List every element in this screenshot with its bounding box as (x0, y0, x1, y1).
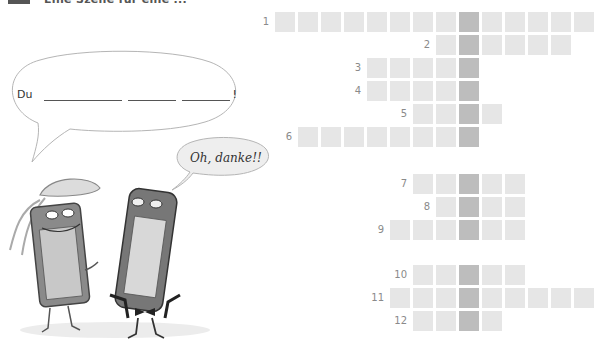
crossword-cell[interactable] (413, 174, 433, 194)
crossword-grid: 123456789101112 (0, 0, 603, 342)
clue-number: 8 (410, 201, 430, 212)
crossword-cell[interactable] (390, 220, 410, 240)
crossword-cell[interactable] (574, 12, 594, 32)
crossword-cell[interactable] (436, 288, 456, 308)
crossword-cell[interactable] (505, 220, 525, 240)
clue-number: 4 (341, 85, 361, 96)
solution-cell[interactable] (459, 265, 479, 285)
crossword-cell[interactable] (482, 197, 502, 217)
solution-cell[interactable] (459, 197, 479, 217)
crossword-cell[interactable] (321, 127, 341, 147)
crossword-cell[interactable] (413, 311, 433, 331)
crossword-cell[interactable] (482, 35, 502, 55)
solution-cell[interactable] (459, 288, 479, 308)
crossword-cell[interactable] (551, 35, 571, 55)
crossword-cell[interactable] (413, 81, 433, 101)
crossword-cell[interactable] (528, 288, 548, 308)
solution-cell[interactable] (459, 127, 479, 147)
solution-cell[interactable] (459, 174, 479, 194)
crossword-cell[interactable] (321, 12, 341, 32)
crossword-cell[interactable] (482, 220, 502, 240)
crossword-cell[interactable] (413, 104, 433, 124)
crossword-cell[interactable] (482, 104, 502, 124)
crossword-cell[interactable] (436, 311, 456, 331)
crossword-cell[interactable] (551, 288, 571, 308)
solution-cell[interactable] (459, 220, 479, 240)
crossword-cell[interactable] (344, 127, 364, 147)
crossword-cell[interactable] (505, 174, 525, 194)
crossword-cell[interactable] (505, 35, 525, 55)
crossword-cell[interactable] (413, 265, 433, 285)
crossword-cell[interactable] (505, 288, 525, 308)
crossword-cell[interactable] (298, 127, 318, 147)
crossword-cell[interactable] (367, 81, 387, 101)
crossword-cell[interactable] (436, 197, 456, 217)
crossword-cell[interactable] (528, 12, 548, 32)
crossword-cell[interactable] (367, 58, 387, 78)
clue-number: 12 (387, 315, 407, 326)
crossword-cell[interactable] (367, 12, 387, 32)
crossword-cell[interactable] (413, 12, 433, 32)
crossword-cell[interactable] (413, 220, 433, 240)
clue-number: 9 (364, 224, 384, 235)
solution-cell[interactable] (459, 35, 479, 55)
crossword-cell[interactable] (574, 288, 594, 308)
crossword-cell[interactable] (505, 197, 525, 217)
crossword-cell[interactable] (436, 35, 456, 55)
crossword-cell[interactable] (436, 12, 456, 32)
crossword-cell[interactable] (482, 174, 502, 194)
crossword-cell[interactable] (551, 12, 571, 32)
crossword-cell[interactable] (344, 12, 364, 32)
crossword-cell[interactable] (413, 127, 433, 147)
crossword-cell[interactable] (390, 127, 410, 147)
crossword-cell[interactable] (436, 220, 456, 240)
clue-number: 6 (272, 131, 292, 142)
clue-number: 5 (387, 108, 407, 119)
solution-cell[interactable] (459, 104, 479, 124)
crossword-cell[interactable] (390, 58, 410, 78)
solution-cell[interactable] (459, 311, 479, 331)
crossword-cell[interactable] (505, 12, 525, 32)
crossword-cell[interactable] (413, 58, 433, 78)
clue-number: 3 (341, 62, 361, 73)
crossword-cell[interactable] (367, 127, 387, 147)
crossword-cell[interactable] (436, 104, 456, 124)
crossword-cell[interactable] (298, 12, 318, 32)
crossword-cell[interactable] (390, 288, 410, 308)
crossword-cell[interactable] (436, 265, 456, 285)
crossword-cell[interactable] (436, 127, 456, 147)
crossword-cell[interactable] (482, 311, 502, 331)
solution-cell[interactable] (459, 12, 479, 32)
crossword-cell[interactable] (413, 288, 433, 308)
crossword-cell[interactable] (390, 81, 410, 101)
clue-number: 2 (410, 39, 430, 50)
crossword-cell[interactable] (436, 81, 456, 101)
solution-cell[interactable] (459, 81, 479, 101)
crossword-cell[interactable] (436, 174, 456, 194)
crossword-cell[interactable] (436, 58, 456, 78)
crossword-cell[interactable] (482, 265, 502, 285)
crossword-cell[interactable] (482, 12, 502, 32)
crossword-cell[interactable] (505, 265, 525, 285)
clue-number: 1 (249, 16, 269, 27)
clue-number: 7 (387, 178, 407, 189)
solution-cell[interactable] (459, 58, 479, 78)
crossword-cell[interactable] (528, 35, 548, 55)
crossword-cell[interactable] (390, 12, 410, 32)
clue-number: 11 (364, 292, 384, 303)
clue-number: 10 (387, 269, 407, 280)
crossword-cell[interactable] (482, 288, 502, 308)
crossword-cell[interactable] (275, 12, 295, 32)
